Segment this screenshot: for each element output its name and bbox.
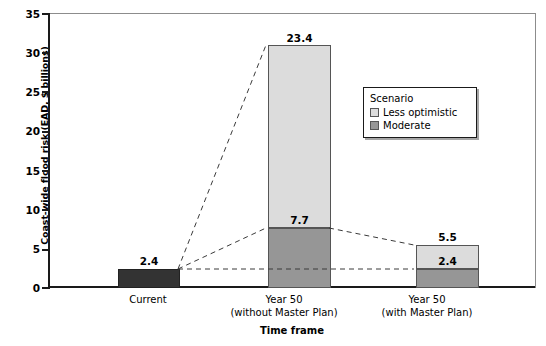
bar-value-current: 2.4 xyxy=(118,256,180,267)
y-tick-mark-5 xyxy=(42,249,50,251)
y-tick-mark-30 xyxy=(42,52,50,54)
bar-value-noplan-moderate: 7.7 xyxy=(268,215,331,226)
legend-swatch-moderate xyxy=(370,121,379,130)
y-tick-label-25: 25 xyxy=(8,87,40,98)
y-tick-mark-35 xyxy=(42,13,50,15)
legend-label-moderate: Moderate xyxy=(383,119,431,132)
y-tick-label-10: 10 xyxy=(8,205,40,216)
x-category-label-plan-line2: (with Master Plan) xyxy=(357,307,497,320)
y-tick-label-0: 0 xyxy=(8,283,40,294)
x-category-label-noplan: Year 50 (without Master Plan) xyxy=(204,294,364,319)
legend-label-less-optimistic: Less optimistic xyxy=(383,106,457,119)
x-category-label-noplan-line1: Year 50 xyxy=(204,294,364,307)
x-category-label-current: Current xyxy=(86,294,210,307)
y-tick-label-20: 20 xyxy=(8,126,40,137)
plot-area: 2.4 23.4 7.7 5.5 2.4 xyxy=(48,14,535,288)
x-category-label-plan: Year 50 (with Master Plan) xyxy=(357,294,497,319)
bar-value-noplan-total: 23.4 xyxy=(268,33,331,44)
legend-swatch-less-optimistic xyxy=(370,108,379,117)
y-tick-label-15: 15 xyxy=(8,166,40,177)
x-category-label-current-line1: Current xyxy=(86,294,210,307)
y-tick-label-30: 30 xyxy=(8,48,40,59)
y-tick-mark-10 xyxy=(42,209,50,211)
bar-value-plan-moderate: 2.4 xyxy=(416,256,479,267)
x-axis-title: Time frame xyxy=(48,325,536,336)
legend-item-moderate[interactable]: Moderate xyxy=(370,119,470,132)
bar-noplan-segment-less-optimistic xyxy=(268,45,331,228)
legend-title: Scenario xyxy=(370,92,470,105)
x-category-label-noplan-line2: (without Master Plan) xyxy=(204,307,364,320)
bar-noplan-segment-moderate xyxy=(268,228,331,288)
legend: Scenario Less optimistic Moderate xyxy=(363,87,477,138)
plot-frame-right xyxy=(535,14,536,288)
x-category-label-plan-line1: Year 50 xyxy=(357,294,497,307)
bar-plan-segment-moderate xyxy=(416,269,479,288)
legend-item-less-optimistic[interactable]: Less optimistic xyxy=(370,106,470,119)
y-tick-mark-0 xyxy=(42,287,50,289)
bar-value-plan-total: 5.5 xyxy=(416,232,479,243)
y-tick-label-5: 5 xyxy=(8,244,40,255)
y-tick-mark-20 xyxy=(42,131,50,133)
chart-figure: Coast-wide flood risk (EAD, $ billions) … xyxy=(0,0,546,346)
y-tick-label-35: 35 xyxy=(8,9,40,20)
y-tick-mark-25 xyxy=(42,91,50,93)
y-tick-mark-15 xyxy=(42,170,50,172)
bar-current-segment xyxy=(118,269,180,288)
